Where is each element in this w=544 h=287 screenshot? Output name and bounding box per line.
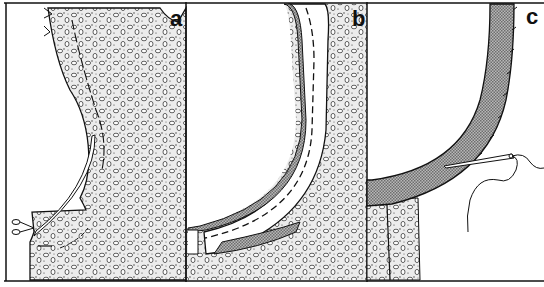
diagram-svg: a b c bbox=[0, 0, 544, 287]
panel-label-b: b bbox=[352, 6, 365, 31]
panel-a-fabric bbox=[30, 8, 186, 280]
panel-c-fabric bbox=[367, 198, 420, 280]
panel-b: b bbox=[187, 4, 367, 280]
panel-c: c bbox=[367, 4, 544, 280]
sewing-diagram: a b c bbox=[0, 0, 544, 287]
thread bbox=[467, 155, 544, 232]
fold-tab bbox=[188, 230, 198, 254]
scissors-icon bbox=[12, 220, 34, 235]
panel-label-a: a bbox=[170, 6, 183, 31]
facing-turned bbox=[367, 4, 514, 206]
panel-a: a bbox=[12, 6, 186, 280]
panel-label-c: c bbox=[526, 4, 538, 29]
